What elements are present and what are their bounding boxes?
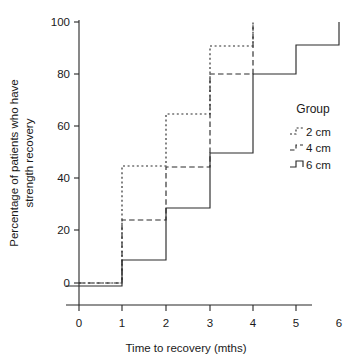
x-tick-label-4: 4 — [250, 317, 257, 329]
y-tick-label-60: 60 — [57, 120, 70, 132]
legend-item-6cm[interactable]: 6 cm — [290, 159, 331, 171]
x-tick-label-6: 6 — [336, 317, 342, 329]
series-6cm-step-line — [66, 22, 339, 286]
legend-item-4cm[interactable]: 4 cm — [290, 142, 331, 154]
y-tick-marks — [74, 22, 79, 283]
x-tick-marks — [79, 305, 296, 311]
legend-swatch-4cm-dashed-step-icon — [290, 145, 303, 150]
x-tick-label-0: 0 — [76, 317, 82, 329]
y-tick-label-20: 20 — [57, 224, 70, 236]
y-tick-labels: 0 20 40 60 80 100 — [51, 16, 70, 289]
x-tick-label-3: 3 — [207, 317, 213, 329]
x-axis-title: Time to recovery (mths) — [126, 342, 247, 354]
y-tick-label-80: 80 — [57, 68, 70, 80]
legend-swatch-2cm-dotted-step-icon — [290, 128, 303, 134]
y-tick-label-0: 0 — [64, 277, 70, 289]
x-tick-label-2: 2 — [163, 317, 169, 329]
legend-swatch-6cm-solid-step-icon — [290, 161, 303, 167]
survival-step-chart: 0 20 40 60 80 100 0 1 2 3 4 5 6 Time to — [0, 0, 363, 359]
x-tick-label-1: 1 — [119, 317, 125, 329]
legend-label-4cm: 4 cm — [306, 142, 331, 154]
chart-canvas: 0 20 40 60 80 100 0 1 2 3 4 5 6 Time to — [0, 0, 363, 359]
y-axis-title-line1: Percentage of patients who have — [8, 79, 20, 247]
axis-group — [66, 20, 312, 305]
series-group — [66, 22, 339, 286]
legend-item-2cm[interactable]: 2 cm — [290, 126, 331, 138]
legend-title: Group — [296, 102, 330, 116]
y-axis-title-line2: strength recovery — [23, 118, 35, 207]
x-tick-label-5: 5 — [293, 317, 299, 329]
legend-label-2cm: 2 cm — [306, 126, 331, 138]
x-tick-labels: 0 1 2 3 4 5 6 — [76, 317, 342, 329]
legend: Group 2 cm 4 cm 6 cm — [290, 102, 331, 171]
legend-label-6cm: 6 cm — [306, 159, 331, 171]
y-tick-label-40: 40 — [57, 172, 70, 184]
y-tick-label-100: 100 — [51, 16, 70, 28]
